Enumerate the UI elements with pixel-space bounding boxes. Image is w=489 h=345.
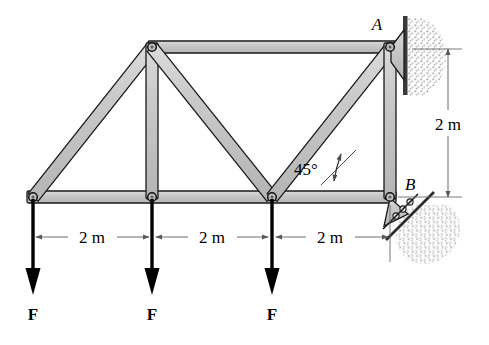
label-dim-3: 2 m — [317, 228, 343, 247]
label-dim-1: 2 m — [79, 228, 105, 247]
label-angle-45: 45° — [294, 160, 318, 179]
label-support-b: B — [405, 175, 416, 194]
member-vertical-mid — [146, 43, 158, 199]
truss-diagram-canvas: A B 45° 2 m F F F — [0, 0, 489, 345]
label-dim-vertical: 2 m — [435, 115, 461, 134]
label-dim-2: 2 m — [199, 228, 225, 247]
member-top-chord — [148, 41, 396, 53]
label-force-2: F — [147, 305, 157, 324]
member-bottom-chord — [27, 191, 396, 203]
label-support-a: A — [371, 15, 383, 34]
truss-figure: A B 45° 2 m F F F — [0, 0, 489, 345]
label-force-3: F — [267, 305, 277, 324]
label-force-1: F — [28, 305, 38, 324]
